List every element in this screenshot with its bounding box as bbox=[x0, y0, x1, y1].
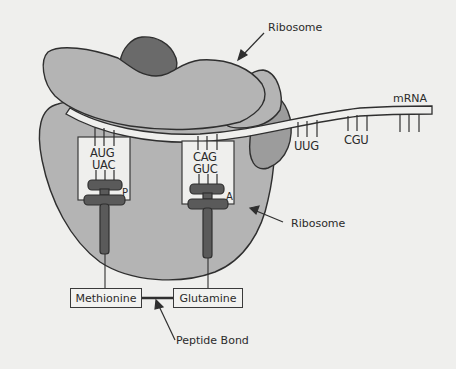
p-site-anticodon: UAC bbox=[92, 160, 115, 172]
a-site-label: A bbox=[226, 192, 233, 202]
methionine-box: Methionine bbox=[70, 288, 142, 308]
a-site-anticodon: GUC bbox=[193, 164, 217, 176]
diagram-graphics bbox=[0, 0, 456, 369]
p-site-label: P bbox=[122, 188, 128, 198]
glutamine-box: Glutamine bbox=[173, 288, 243, 308]
downstream-codon-2: CGU bbox=[344, 135, 368, 147]
ribosome-bottom-label: Ribosome bbox=[291, 218, 345, 229]
downstream-codon-1: UUG bbox=[294, 141, 319, 153]
translation-diagram: Ribosome Ribosome mRNA Peptide Bond AUG … bbox=[0, 0, 456, 369]
ribosome-top-label: Ribosome bbox=[268, 22, 322, 33]
peptide-bond-label: Peptide Bond bbox=[176, 335, 249, 346]
mrna-label: mRNA bbox=[393, 93, 427, 104]
